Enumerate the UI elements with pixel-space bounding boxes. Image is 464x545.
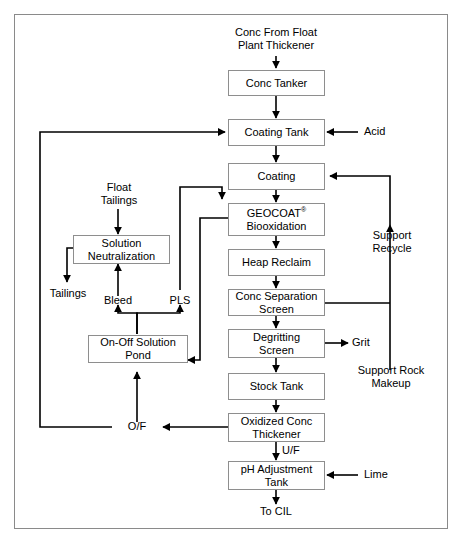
label-tailings: Tailings <box>37 287 99 300</box>
node-coating[interactable]: Coating <box>228 163 325 190</box>
node-ph-adjustment-tank[interactable]: pH Adjustment Tank <box>228 461 325 490</box>
label-to-cil: To CIL <box>246 505 306 518</box>
node-oxidized-conc-thickener[interactable]: Oxidized Conc Thickener <box>228 413 325 442</box>
flowchart-page: Conc Tanker Coating Tank Coating GEOCOAT… <box>0 0 464 545</box>
node-heap-reclaim[interactable]: Heap Reclaim <box>228 249 325 276</box>
node-on-off-solution-pond[interactable]: On-Off Solution Pond <box>88 335 188 363</box>
label-lime: Lime <box>364 468 412 481</box>
label-grit: Grit <box>352 336 396 349</box>
node-stock-tank[interactable]: Stock Tank <box>228 373 325 400</box>
node-geocoat-biooxidation[interactable]: GEOCOAT®Biooxidation <box>228 203 325 236</box>
node-solution-neutralization[interactable]: Solution Neutralization <box>73 235 170 264</box>
label-bleed: Bleed <box>97 294 139 307</box>
label-pls: PLS <box>162 294 198 307</box>
label-float-tailings: Float Tailings <box>88 181 150 207</box>
label-support-recycle: Support Recycle <box>361 229 423 255</box>
label-feed-source: Conc From Float Plant Thickener <box>216 26 336 52</box>
node-degritting-screen[interactable]: Degritting Screen <box>228 329 325 358</box>
node-conc-separation-screen[interactable]: Conc Separation Screen <box>228 289 325 316</box>
label-acid: Acid <box>364 125 424 138</box>
node-conc-tanker[interactable]: Conc Tanker <box>228 70 325 96</box>
node-geocoat-label: GEOCOAT®Biooxidation <box>247 207 307 233</box>
label-support-rock-makeup: Support Rock Makeup <box>352 364 430 390</box>
label-overflow: O/F <box>117 420 157 433</box>
node-coating-tank[interactable]: Coating Tank <box>228 119 325 146</box>
label-underflow: U/F <box>282 444 318 457</box>
